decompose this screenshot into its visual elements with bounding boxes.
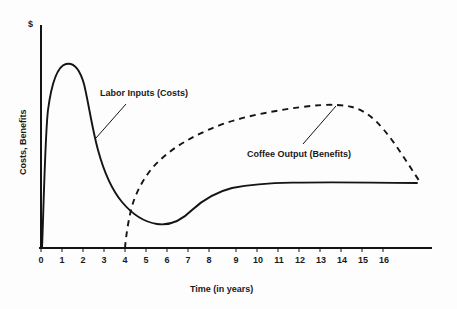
x-tick-label-5: 5 xyxy=(143,255,148,265)
x-tick-label-10: 10 xyxy=(253,255,263,265)
x-tick-label-2: 2 xyxy=(80,255,85,265)
annotation-coffee-output-benefits: Coffee Output (Benefits) xyxy=(247,149,351,159)
x-tick-label-16: 16 xyxy=(379,255,389,265)
x-tick-label-14: 14 xyxy=(337,255,347,265)
annotation-labor-inputs-costs: Labor Inputs (Costs) xyxy=(100,88,188,98)
x-tick-label-7: 7 xyxy=(185,255,190,265)
x-tick-label-3: 3 xyxy=(101,255,106,265)
y-axis-title: Costs, Benefits xyxy=(18,109,28,175)
series-line-coffee-output-benefits xyxy=(125,105,420,248)
series-line-labor-inputs-costs xyxy=(42,64,417,248)
leader-line-coffee-output xyxy=(303,106,336,144)
x-tick-label-15: 15 xyxy=(358,255,368,265)
x-tick-label-1: 1 xyxy=(59,255,64,265)
x-tick-label-6: 6 xyxy=(164,255,169,265)
y-axis-unit-label: $ xyxy=(28,19,33,29)
leader-line-labor-inputs xyxy=(96,104,126,138)
line-chart: 0 1 2 3 4 5 6 7 8 9 10 11 12 13 14 15 16… xyxy=(0,0,457,309)
x-tick-label-4: 4 xyxy=(122,255,127,265)
chart-container: 0 1 2 3 4 5 6 7 8 9 10 11 12 13 14 15 16… xyxy=(0,0,457,309)
x-tick-label-12: 12 xyxy=(295,255,305,265)
x-tick-label-13: 13 xyxy=(316,255,326,265)
x-tick-label-0: 0 xyxy=(38,255,43,265)
x-tick-label-9: 9 xyxy=(233,255,238,265)
x-tick-label-11: 11 xyxy=(274,255,284,265)
x-axis-title: Time (in years) xyxy=(190,284,253,294)
x-tick-label-8: 8 xyxy=(206,255,211,265)
